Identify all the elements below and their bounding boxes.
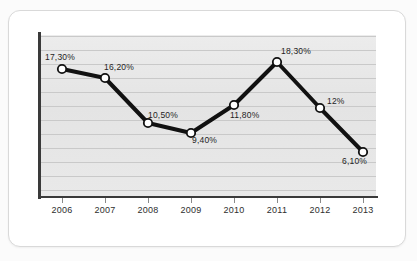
data-point-marker[interactable] xyxy=(101,74,109,82)
data-point-marker[interactable] xyxy=(359,148,367,156)
screenshot-root: 17,30% 16,20% 10,50% 9,40% 11,80% 18,30%… xyxy=(0,0,417,261)
line-chart-figure: 17,30% 16,20% 10,50% 9,40% 11,80% 18,30%… xyxy=(0,0,417,261)
data-label-2012: 12% xyxy=(327,96,345,106)
data-point-marker[interactable] xyxy=(316,104,324,112)
data-point-marker[interactable] xyxy=(58,65,66,73)
data-label-2007: 16,20% xyxy=(104,62,134,72)
data-series-layer xyxy=(0,0,417,261)
x-axis-label-2011: 2011 xyxy=(267,205,288,215)
x-axis-label-2007: 2007 xyxy=(94,205,115,215)
data-label-2006: 17,30% xyxy=(45,52,75,62)
x-axis-label-2012: 2012 xyxy=(309,205,330,215)
data-point-marker[interactable] xyxy=(273,58,281,66)
data-label-2008: 10,50% xyxy=(148,110,178,120)
data-point-marker[interactable] xyxy=(144,119,152,127)
x-axis-label-2008: 2008 xyxy=(137,205,158,215)
data-point-marker[interactable] xyxy=(230,101,238,109)
x-axis-label-2013: 2013 xyxy=(352,205,373,215)
x-axis-label-2010: 2010 xyxy=(223,205,244,215)
data-label-2009: 9,40% xyxy=(192,135,217,145)
x-axis-label-2009: 2009 xyxy=(180,205,201,215)
data-label-2011: 18,30% xyxy=(281,46,311,56)
data-label-2010: 11,80% xyxy=(230,110,259,120)
data-label-2013: 6,10% xyxy=(342,156,367,166)
x-axis-label-2006: 2006 xyxy=(51,205,72,215)
